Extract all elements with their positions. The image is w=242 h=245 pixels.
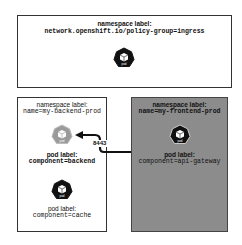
connection-arrow xyxy=(0,0,242,245)
port-label: 8443 xyxy=(92,140,107,147)
